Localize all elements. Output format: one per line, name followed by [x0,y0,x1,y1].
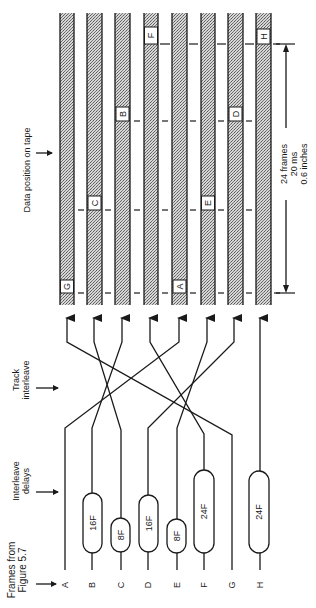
interleave-delays-label-1: Interleave [11,461,21,501]
tape-track-8 [256,13,271,305]
interleave-delays-label-2: delays [21,467,31,494]
wire-B-to-track-3 [92,318,122,493]
frame-marker-label: G [62,283,72,290]
input-stubs [92,552,260,570]
frame-marker-label: H [259,33,269,40]
tape-track-3 [115,13,130,305]
dimension-frames: 24 frames [279,143,289,184]
delay-block-C: 8F [111,518,130,552]
frame-marker-track-2: C [88,196,101,210]
wire-C-to-track-2 [94,318,121,518]
input-labels: A B C D E F G H [60,581,265,588]
input-label-E: E [172,582,182,588]
frame-marker-track-1: G [61,280,74,293]
tape-track-6 [201,13,215,305]
delay-block-E: 8F [167,519,186,553]
annotation-track-interleave: Track interleave [11,360,58,399]
delay-label: 24F [199,503,209,519]
track-interleave-label-2: interleave [21,360,31,399]
tape-track-4 [144,13,158,305]
dimension-annotation: 24 frames 20 ms 0.6 inches [276,44,309,293]
frame-marker-label: F [146,32,156,38]
tape-track-1 [60,13,74,305]
input-label-D: D [143,581,153,588]
delay-label: 16F [88,515,98,531]
frames-from-label-1: Frames from [6,542,17,599]
delay-label: 24F [254,504,264,520]
tape-track-7 [228,13,243,305]
delay-block-F: 24F [194,470,214,553]
tape-track-5 [172,13,187,305]
frame-marker-label: D [231,110,241,117]
frame-marker-track-8: H [257,29,270,44]
dimension-arrow-top-icon [283,44,289,52]
input-label-F: F [199,582,209,588]
input-label-G: G [227,581,237,588]
delay-label: 8F [172,530,182,541]
frame-marker-track-7: D [229,107,242,121]
tape-track-2 [87,13,102,305]
interleave-diagram: G C B F A E D H [0,0,316,608]
dimension-time: 20 ms [289,151,299,176]
frame-marker-label: A [175,283,185,289]
frame-marker-track-4: F [145,27,158,44]
input-label-A: A [60,582,70,588]
frame-marker-track-3: B [116,107,129,121]
frame-marker-label: C [90,199,100,206]
delay-label: 8F [116,529,126,540]
delay-block-H: 24F [249,471,269,553]
track-interleave-label-1: Track [11,368,21,391]
delay-block-D: 16F [139,495,158,552]
delay-blocks: 16F 8F 16F 8F 24F 24F [83,470,269,553]
delay-block-B: 16F [83,493,102,553]
input-label-H: H [255,582,265,589]
annotation-data-position: Data position on tape [22,127,52,212]
data-position-label: Data position on tape [22,127,32,212]
wire-D-to-track-7 [148,318,234,495]
input-label-B: B [87,582,97,588]
frame-marker-label: B [118,111,128,117]
frame-marker-track-5: A [173,280,186,293]
dimension-arrow-bottom-icon [283,285,289,293]
annotation-interleave-delays: Interleave delays [11,461,58,501]
input-label-C: C [116,581,126,588]
frame-marker-label: E [203,200,213,206]
frame-marker-track-6: E [202,196,215,210]
annotation-frames-from: Frames from Figure 5.7 [6,542,56,599]
dimension-length: 0.6 inches [299,143,309,185]
delay-label: 16F [144,515,154,531]
tape-tracks [60,13,271,305]
frames-from-label-2: Figure 5.7 [17,547,28,592]
